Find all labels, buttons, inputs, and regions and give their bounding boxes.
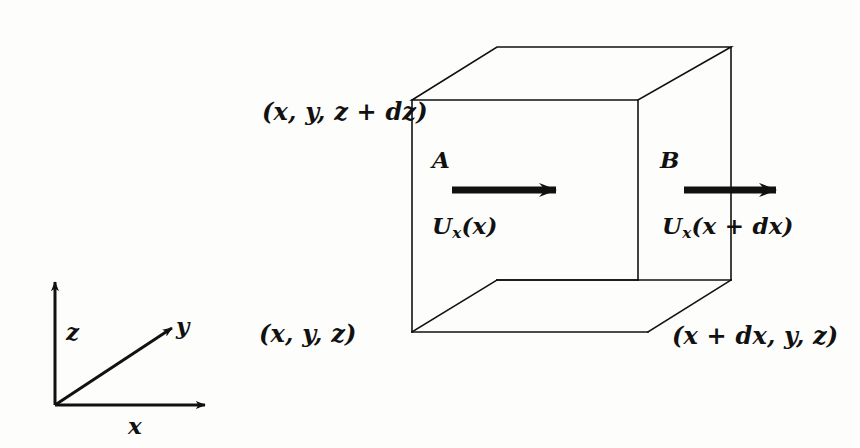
velocity-b-symbol: U	[662, 212, 682, 239]
face-label-b: B	[660, 148, 680, 171]
velocity-a-symbol: U	[432, 212, 452, 239]
velocity-label-b: Ux(x + dx)	[662, 214, 794, 241]
cuboid-top-face	[412, 47, 731, 100]
velocity-a-argument: (x)	[462, 212, 498, 239]
velocity-label-a: Ux(x)	[432, 214, 498, 241]
velocity-b-argument: (x + dx)	[692, 212, 794, 239]
diagram-canvas: (x, y, z + dz) (x + dx, y, z) (x, y, z) …	[0, 0, 860, 448]
corner-label-top-left: (x, y, z + dz)	[262, 100, 428, 124]
origin-coordinate-label: (x, y, z)	[259, 322, 357, 346]
cuboid-edge-bottom-left-diagonal	[412, 280, 497, 332]
axis-label-z: z	[66, 320, 79, 343]
axis-label-y: y	[176, 314, 190, 337]
axis-label-x: x	[128, 414, 142, 437]
corner-label-bottom-right: (x + dx, y, z)	[672, 324, 838, 348]
velocity-a-subscript: x	[452, 224, 461, 242]
velocity-b-subscript: x	[682, 224, 691, 242]
face-label-a: A	[432, 148, 450, 171]
